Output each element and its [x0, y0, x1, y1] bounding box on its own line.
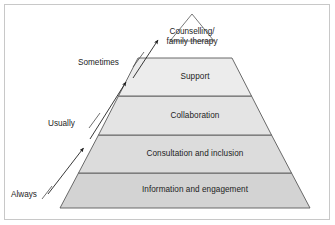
- slash-always: [42, 186, 52, 199]
- apex-label-line1: Counselling/: [169, 27, 214, 36]
- frequency-label-sometimes: Sometimes: [78, 58, 119, 67]
- apex-label: Counselling/ family therapy: [146, 27, 238, 46]
- tier-label-consultation-and-inclusion: Consultation and inclusion: [110, 149, 280, 158]
- diagram-page: Counselling/ family therapy Support Coll…: [0, 0, 335, 225]
- frequency-label-always: Always: [11, 190, 37, 199]
- slash-sometimes: [133, 52, 144, 67]
- tier-label-collaboration: Collaboration: [130, 111, 260, 120]
- apex-label-line2: family therapy: [167, 37, 218, 46]
- arrow-usually: [90, 82, 126, 139]
- tier-label-support: Support: [140, 72, 250, 81]
- pyramid-diagram: Counselling/ family therapy Support Coll…: [0, 0, 335, 225]
- frequency-label-usually: Usually: [48, 119, 75, 128]
- tier-label-information-and-engagement: Information and engagement: [100, 185, 290, 194]
- arrow-always: [48, 148, 84, 194]
